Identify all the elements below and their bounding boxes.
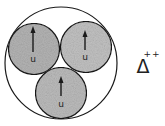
particle-label: Δ ++ [137, 49, 161, 77]
quark-flavor-label: u [30, 54, 36, 64]
quark-sphere [61, 22, 112, 73]
particle-charge: ++ [143, 49, 160, 59]
delta-plus-plus-diagram: u u u Δ ++ [0, 0, 165, 126]
quark-flavor-label: u [82, 52, 88, 62]
quark-bottom: u [36, 68, 87, 119]
quark-flavor-label: u [58, 99, 64, 109]
quark-top-left: u [9, 24, 60, 75]
quark-top-right: u [61, 22, 112, 73]
